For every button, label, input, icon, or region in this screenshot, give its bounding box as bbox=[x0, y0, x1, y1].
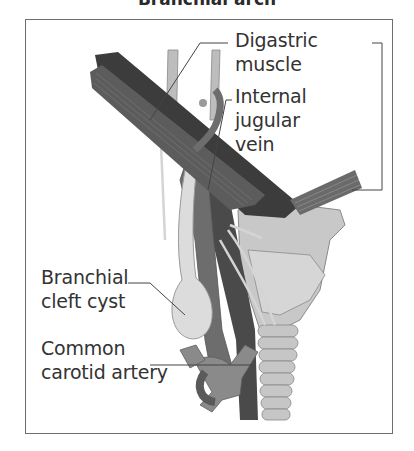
label-digastric-2: muscle bbox=[235, 52, 302, 76]
trachea bbox=[258, 325, 298, 420]
digastric-muscle bbox=[90, 52, 362, 218]
label-cca-2: carotid artery bbox=[41, 360, 168, 384]
vessel-stub bbox=[199, 99, 207, 107]
label-cca-1: Common bbox=[41, 336, 125, 360]
label-cyst-2: cleft cyst bbox=[41, 289, 125, 313]
label-ijv-2: jugular bbox=[235, 108, 300, 132]
label-ijv-3: vein bbox=[235, 132, 274, 156]
label-ijv-1: Internal bbox=[235, 84, 307, 108]
label-cyst-1: Branchial bbox=[41, 265, 128, 289]
larynx bbox=[238, 205, 345, 330]
label-digastric-1: Digastric bbox=[235, 28, 318, 52]
